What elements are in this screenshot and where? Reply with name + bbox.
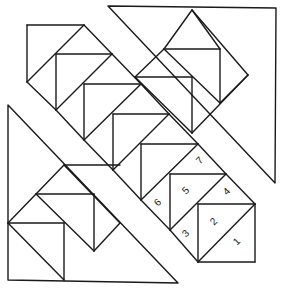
piece-edge [56,110,84,140]
piece-number-3: 3 [180,227,192,239]
piece-edge [8,194,36,223]
piece-edge [94,223,120,251]
strip-lines [8,10,255,280]
piece-edge [169,114,198,144]
piece-edge [226,174,255,204]
piece-number-4: 4 [221,185,233,197]
piece-edge [198,144,226,174]
piece-number-5: 5 [180,184,192,196]
piece-edge [198,204,255,262]
piece-number-1: 1 [231,235,243,247]
quilt-diagram: 1234567 [0,0,283,288]
piece-labels: 1234567 [152,154,243,247]
piece-number-6: 6 [152,196,164,208]
piece-edge [113,170,141,200]
piece-edge [135,49,164,77]
piece-edge [141,84,169,114]
piece-edge [164,10,192,49]
quilt-diagram-svg: 1234567 [0,0,283,288]
piece-edge [84,25,112,54]
piece-edge [27,82,56,110]
piece-number-7: 7 [194,154,206,166]
piece-number-2: 2 [208,215,220,227]
piece-edge [8,223,64,280]
piece-edge [36,165,64,194]
